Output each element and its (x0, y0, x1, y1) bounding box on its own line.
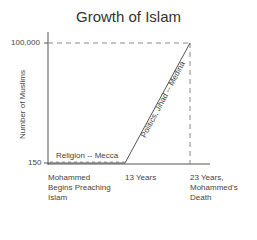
growth-line (48, 43, 190, 163)
y-tick-100000: 100,000 (11, 38, 40, 48)
x-tick-13-years: 13 Years (125, 173, 156, 183)
x-tick-start: Mohammed Begins Preaching Islam (48, 173, 111, 203)
y-axis-label: Number of Muslims (18, 65, 27, 145)
annotation-religion-mecca: Religion -- Mecca (56, 151, 118, 161)
y-tick-150: 150 (28, 158, 41, 168)
x-tick-23-years: 23 Years, Mohammed's Death (190, 173, 238, 203)
